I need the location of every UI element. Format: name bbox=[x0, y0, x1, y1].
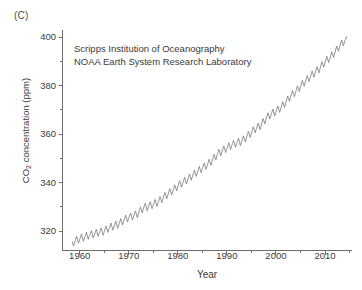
co2-data-line bbox=[72, 37, 346, 246]
plot-area bbox=[0, 0, 362, 290]
co2-chart-figure: (C) CO2 concentration (ppm) Year 3203403… bbox=[0, 0, 362, 290]
